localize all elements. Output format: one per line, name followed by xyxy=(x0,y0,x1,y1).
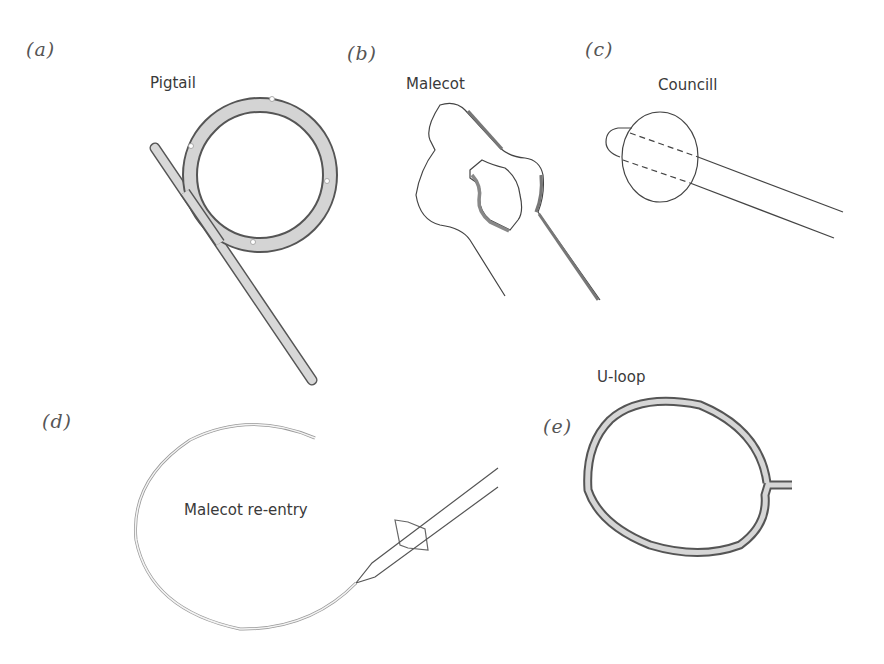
label-malecot-reentry: Malecot re-entry xyxy=(184,501,308,519)
malecot-catheter-drawing xyxy=(416,103,600,300)
catheter-types-figure: (a) (b) (c) (d) (e) Pigtail Malecot Coun… xyxy=(0,0,884,664)
malecot-reentry-catheter-drawing xyxy=(135,424,498,629)
panel-letter-a: (a) xyxy=(26,38,55,60)
panel-letter-c: (c) xyxy=(585,38,613,60)
label-pigtail: Pigtail xyxy=(150,74,196,92)
label-councill: Councill xyxy=(658,76,717,94)
councill-catheter-drawing xyxy=(606,112,843,238)
pigtail-catheter-drawing xyxy=(155,97,330,381)
u-loop-catheter-drawing xyxy=(588,401,792,552)
label-malecot: Malecot xyxy=(406,75,465,93)
panel-letter-b: (b) xyxy=(347,42,377,64)
panel-letter-d: (d) xyxy=(42,410,72,432)
label-u-loop: U-loop xyxy=(597,368,645,386)
panel-letter-e: (e) xyxy=(543,415,572,437)
diagram-drawings xyxy=(0,0,884,664)
